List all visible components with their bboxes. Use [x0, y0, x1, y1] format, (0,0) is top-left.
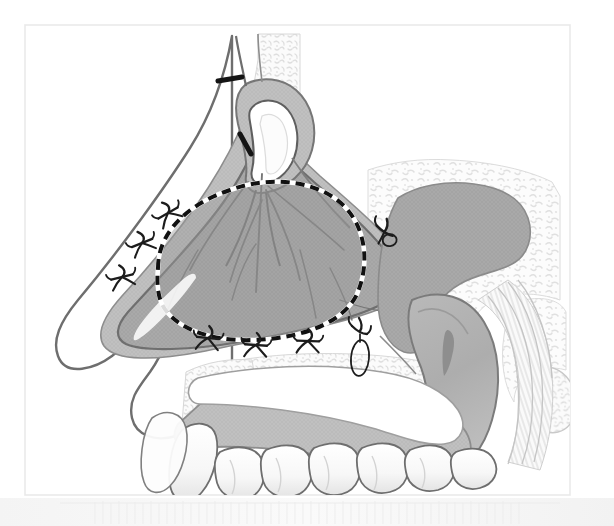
page-edge-texture	[0, 498, 614, 526]
illustration-stage: Sagittal section of nasal cavity showing…	[0, 0, 614, 526]
nasal-sagittal-diagram	[0, 0, 614, 526]
